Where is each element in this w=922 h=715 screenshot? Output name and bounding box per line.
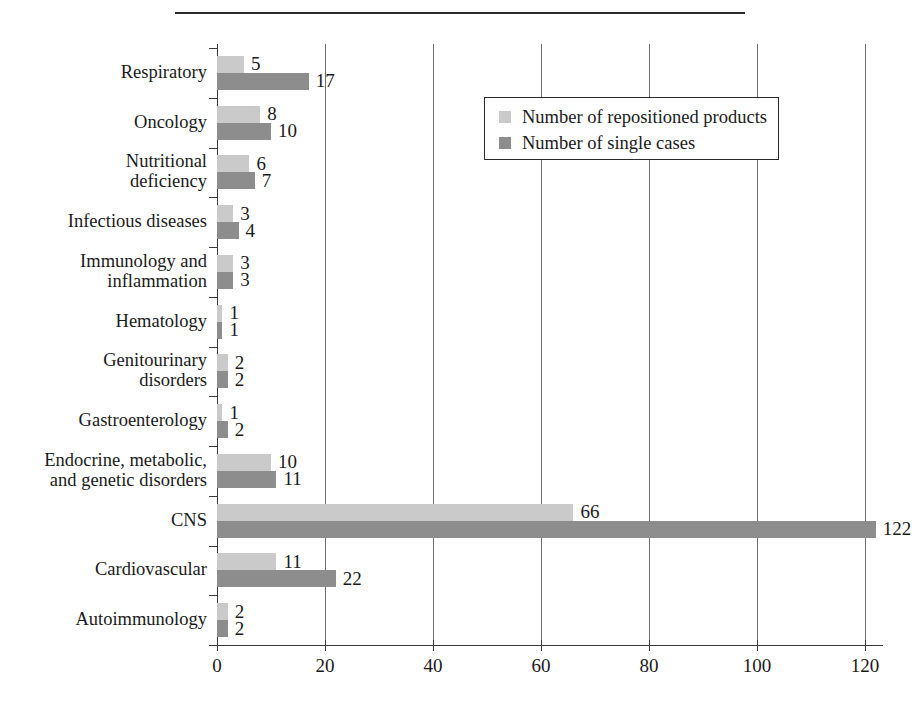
bar-value-label: 4 [246, 220, 256, 242]
bar-repositioned [217, 56, 244, 73]
category-label-nutritional-deficiency: Nutritionaldeficiency [126, 151, 207, 191]
x-tick-120 [865, 640, 866, 651]
category-label-gastroenterology: Gastroenterology [79, 410, 207, 430]
bar-single-cases [217, 322, 222, 339]
y-tick-7 [209, 396, 218, 397]
x-tick-label-100: 100 [743, 655, 772, 677]
legend-label-single-cases: Number of single cases [522, 133, 695, 154]
bar-single-cases [217, 570, 336, 587]
gridline-20 [325, 44, 326, 647]
x-tick-label-80: 80 [640, 655, 659, 677]
bar-value-label: 1 [229, 319, 239, 341]
bar-value-label: 3 [240, 269, 250, 291]
category-label-hematology: Hematology [116, 311, 207, 331]
bar-single-cases [217, 172, 255, 189]
bar-value-label: 11 [283, 468, 301, 490]
y-tick-8 [209, 446, 218, 447]
bar-repositioned [217, 255, 233, 272]
y-tick-4 [209, 247, 218, 248]
bar-repositioned [217, 404, 222, 421]
y-tick-12 [209, 645, 218, 646]
bar-value-label: 17 [316, 70, 335, 92]
gridline-40 [433, 44, 434, 647]
top-rule-divider [175, 12, 745, 14]
bar-single-cases [217, 222, 239, 239]
bar-repositioned [217, 504, 573, 521]
bar-single-cases [217, 471, 276, 488]
bar-single-cases [217, 272, 233, 289]
bar-single-cases [217, 123, 271, 140]
legend-item-single-cases: Number of single cases [499, 131, 778, 155]
x-tick-20 [325, 640, 326, 651]
legend-swatch-repositioned [499, 111, 511, 123]
x-tick-label-40: 40 [424, 655, 443, 677]
bar-single-cases [217, 371, 228, 388]
bar-single-cases [217, 421, 228, 438]
y-tick-9 [209, 496, 218, 497]
y-tick-11 [209, 595, 218, 596]
x-tick-40 [433, 640, 434, 651]
x-axis-line [217, 645, 883, 646]
category-label-oncology: Oncology [134, 112, 207, 132]
y-tick-0 [209, 48, 218, 49]
x-tick-60 [541, 640, 542, 651]
legend-item-repositioned: Number of repositioned products [499, 105, 778, 129]
category-label-endocrine-metabolic-and-genetic-disorders: Endocrine, metabolic,and genetic disorde… [44, 450, 207, 490]
bar-repositioned [217, 155, 249, 172]
category-label-respiratory: Respiratory [121, 62, 207, 82]
chart-legend: Number of repositioned products Number o… [484, 97, 779, 160]
bar-value-label: 122 [883, 518, 912, 540]
y-tick-2 [209, 148, 218, 149]
y-tick-6 [209, 347, 218, 348]
bar-value-label: 10 [278, 120, 297, 142]
x-tick-label-60: 60 [532, 655, 551, 677]
category-label-infectious-diseases: Infectious diseases [68, 211, 207, 231]
bar-repositioned [217, 553, 276, 570]
legend-swatch-single-cases [499, 137, 511, 149]
category-label-cns: CNS [171, 510, 207, 530]
category-label-autoimmunology: Autoimmunology [75, 609, 207, 629]
x-tick-label-120: 120 [851, 655, 880, 677]
x-tick-label-20: 20 [316, 655, 335, 677]
bar-value-label: 2 [235, 419, 245, 441]
bar-repositioned [217, 106, 260, 123]
x-tick-label-0: 0 [212, 655, 222, 677]
bar-single-cases [217, 620, 228, 637]
x-tick-80 [649, 640, 650, 651]
bar-single-cases [217, 73, 309, 90]
legend-label-repositioned: Number of repositioned products [522, 107, 767, 128]
bar-repositioned [217, 454, 271, 471]
category-label-cardiovascular: Cardiovascular [95, 559, 207, 579]
gridline-120 [865, 44, 866, 647]
y-tick-1 [209, 98, 218, 99]
x-tick-100 [757, 640, 758, 651]
category-label-genitourinary-disorders: Genitourinarydisorders [103, 350, 207, 390]
bar-single-cases [217, 521, 876, 538]
bar-value-label: 2 [235, 369, 245, 391]
bar-repositioned [217, 603, 228, 620]
bar-repositioned [217, 205, 233, 222]
bar-repositioned [217, 305, 222, 322]
bar-value-label: 2 [235, 618, 245, 640]
y-tick-10 [209, 546, 218, 547]
bar-chart-figure: 020406080100120 Respiratory517Oncology81… [0, 0, 922, 715]
bar-value-label: 7 [262, 170, 272, 192]
category-label-immunology-and-inflammation: Immunology andinflammation [80, 251, 207, 291]
bar-repositioned [217, 354, 228, 371]
y-tick-3 [209, 197, 218, 198]
y-tick-5 [209, 297, 218, 298]
bar-value-label: 22 [343, 568, 362, 590]
